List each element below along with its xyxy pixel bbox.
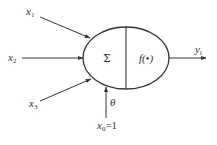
neuron-diagram: Σ f(•) x1 x2 x3 θ x0=1 yi xyxy=(0,0,217,145)
output-yi: yi xyxy=(169,43,206,58)
input-x1-label: x1 xyxy=(25,5,35,19)
input-x2-label: x2 xyxy=(7,51,17,65)
output-yi-label: yi xyxy=(194,43,202,57)
input-x2: x2 xyxy=(7,51,83,65)
neuron-node: Σ f(•) xyxy=(83,27,169,89)
bias-input: θ x0=1 xyxy=(96,87,117,133)
activation-function-label: f(•) xyxy=(139,52,154,65)
input-x3: x3 xyxy=(28,79,91,111)
input-x3-arrow xyxy=(40,79,91,101)
input-x3-label: x3 xyxy=(28,97,38,111)
bias-x0-label: x0=1 xyxy=(96,119,117,133)
summation-symbol: Σ xyxy=(103,52,111,65)
theta-label: θ xyxy=(110,96,116,108)
input-x1: x1 xyxy=(25,5,90,38)
input-x1-arrow xyxy=(40,17,90,38)
